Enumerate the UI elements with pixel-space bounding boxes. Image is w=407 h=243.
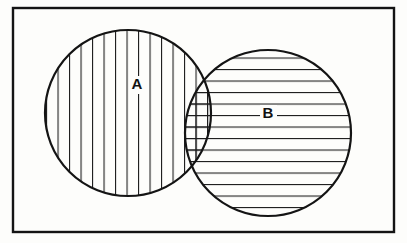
set-a-label: A — [131, 75, 142, 92]
venn-diagram-canvas: A B — [0, 0, 407, 243]
venn-diagram-svg: A B — [0, 0, 407, 243]
set-b-label: B — [262, 104, 273, 121]
